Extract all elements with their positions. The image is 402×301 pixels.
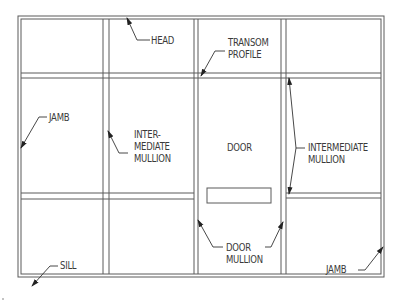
label-jamb-left: JAMB [49,112,69,124]
label-door-mullion: DOOR MULLION [226,242,263,266]
label-jamb-right: JAMB [326,264,346,276]
head-leader [127,18,150,40]
label-transom-profile: TRANSOM PROFILE [228,37,269,61]
door-push-bar [207,188,271,203]
jamb-right-leader [358,247,383,270]
int-mullion-left-leader [108,131,128,153]
transom-leader [201,51,225,76]
label-intermediate-mullion-left: INTER- MEDIATE MULLION [134,129,171,165]
door-mullion-right-leader [265,222,283,247]
elevation-diagram: HEAD TRANSOM PROFILE JAMB INTER- MEDIATE… [0,0,402,301]
int-mullion-right-leader-up [289,78,305,148]
sill-leader [32,266,58,286]
label-head: HEAD [151,35,174,47]
door-mullion-left-leader [198,220,223,247]
int-mullion-right-leader-down [289,148,296,194]
label-sill: SILL [60,260,76,272]
jamb-left-leader [21,117,47,148]
label-intermediate-mullion-right: INTERMEDIATE MULLION [308,142,368,166]
label-door: DOOR [227,142,252,154]
